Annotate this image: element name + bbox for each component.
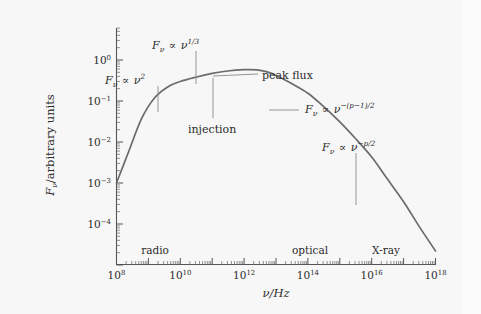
y-tick-label: 100 xyxy=(93,55,111,66)
band-label-optical: optical xyxy=(292,245,328,256)
spectrum-curve xyxy=(117,70,436,251)
y-tick-label: 10−3 xyxy=(87,178,111,189)
x-tick-label: 108 xyxy=(108,270,126,281)
annotation-nu-p-2: Fν ∝ ν−p/2 xyxy=(322,142,375,156)
annotation-nu2: Fν ∝ ν2 xyxy=(105,75,145,89)
y-axis-title: Fν/arbitrary units xyxy=(39,94,58,196)
x-axis-title: ν/Hz xyxy=(263,288,290,300)
figure-container: Fν/arbitrary units ν/Hz 1081010101210141… xyxy=(0,0,481,314)
y-tick-label: 10−2 xyxy=(87,137,111,148)
y-axis-title-prefix: F xyxy=(43,188,57,196)
y-axis-ticks xyxy=(117,28,124,265)
x-axis-ticks xyxy=(117,258,436,265)
x-tick-label: 1010 xyxy=(169,270,191,281)
x-tick-label: 1012 xyxy=(233,270,255,281)
band-label-radio: radio xyxy=(141,245,169,256)
x-tick-label: 1016 xyxy=(361,270,383,281)
y-tick-label: 10−4 xyxy=(87,219,111,230)
band-label-x-ray: X-ray xyxy=(372,245,400,256)
y-tick-label: 10−1 xyxy=(87,96,111,107)
plot-svg xyxy=(0,0,481,314)
annotation-injection: injection xyxy=(188,124,236,135)
x-tick-label: 1018 xyxy=(424,270,446,281)
annotation-nu-p1-2: Fν ∝ ν−(p−1)/2 xyxy=(305,104,375,118)
axis-lines xyxy=(116,28,436,265)
annotation-nu13: Fν ∝ ν1/3 xyxy=(152,40,199,54)
x-tick-label: 1014 xyxy=(297,270,319,281)
y-axis-title-text: Fν/arbitrary units xyxy=(43,94,57,196)
y-axis-title-rest: /arbitrary units xyxy=(43,94,57,183)
x-axis-title-text: ν/Hz xyxy=(263,286,290,300)
y-axis-title-sub: ν xyxy=(50,183,59,188)
annotation-peak-flux: peak flux xyxy=(262,70,313,81)
